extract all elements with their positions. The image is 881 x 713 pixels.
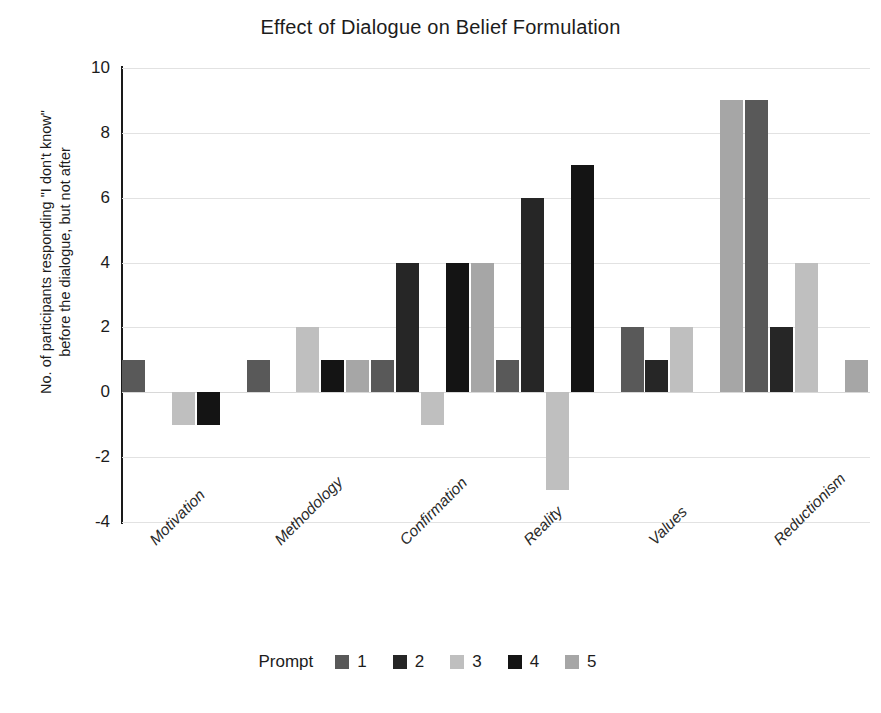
bar	[296, 327, 319, 392]
bar	[645, 360, 668, 392]
plot-area	[122, 68, 870, 522]
bar-group	[371, 68, 496, 522]
bar	[670, 327, 693, 392]
legend-swatch-icon	[565, 655, 579, 669]
bar	[197, 392, 220, 424]
bar	[571, 165, 594, 392]
bar-group	[745, 68, 870, 522]
bar	[496, 360, 519, 392]
bar	[845, 360, 868, 392]
bar	[621, 327, 644, 392]
bar	[346, 360, 369, 392]
legend-label: 4	[530, 652, 539, 672]
legend-item[interactable]: 1	[335, 652, 366, 672]
bar	[122, 360, 145, 392]
bar	[720, 100, 743, 392]
legend-item[interactable]: 2	[393, 652, 424, 672]
bar-group	[122, 68, 247, 522]
y-axis-tick-label: -4	[62, 512, 110, 532]
y-axis-tick-label: 8	[62, 123, 110, 143]
legend-title: Prompt	[258, 652, 313, 672]
legend-item[interactable]: 5	[565, 652, 596, 672]
bar	[795, 263, 818, 393]
y-axis-tick-label: -2	[62, 447, 110, 467]
legend-label: 5	[587, 652, 596, 672]
legend-label: 2	[415, 652, 424, 672]
chart-container: Effect of Dialogue on Belief Formulation…	[0, 0, 881, 713]
y-axis-tick-labels: 1086420-2-4	[58, 68, 110, 522]
y-axis-tick-label: 6	[62, 188, 110, 208]
legend-swatch-icon	[335, 655, 349, 669]
legend-item[interactable]: 4	[508, 652, 539, 672]
bar	[521, 198, 544, 393]
legend-item[interactable]: 3	[450, 652, 481, 672]
legend-swatch-icon	[393, 655, 407, 669]
legend-label: 3	[472, 652, 481, 672]
bar	[770, 327, 793, 392]
bar	[371, 360, 394, 392]
bar	[471, 263, 494, 393]
bar	[172, 392, 195, 424]
legend-swatch-icon	[450, 655, 464, 669]
bar	[396, 263, 419, 393]
chart-legend: Prompt 12345	[0, 652, 881, 672]
bar	[745, 100, 768, 392]
legend-swatch-icon	[508, 655, 522, 669]
bar	[446, 263, 469, 393]
bar-group	[247, 68, 372, 522]
legend-label: 1	[357, 652, 366, 672]
x-axis-category-labels: MotivationMethodologyConfirmationReality…	[122, 522, 870, 642]
bar-group	[496, 68, 621, 522]
y-axis-tick-label: 4	[62, 253, 110, 273]
y-axis-tick-label: 10	[62, 58, 110, 78]
y-axis-tick-label: 2	[62, 317, 110, 337]
bar	[546, 392, 569, 489]
bar	[247, 360, 270, 392]
bar	[321, 360, 344, 392]
chart-title: Effect of Dialogue on Belief Formulation	[0, 16, 881, 39]
y-axis-tick-label: 0	[62, 382, 110, 402]
bar	[421, 392, 444, 424]
bar-group	[621, 68, 746, 522]
